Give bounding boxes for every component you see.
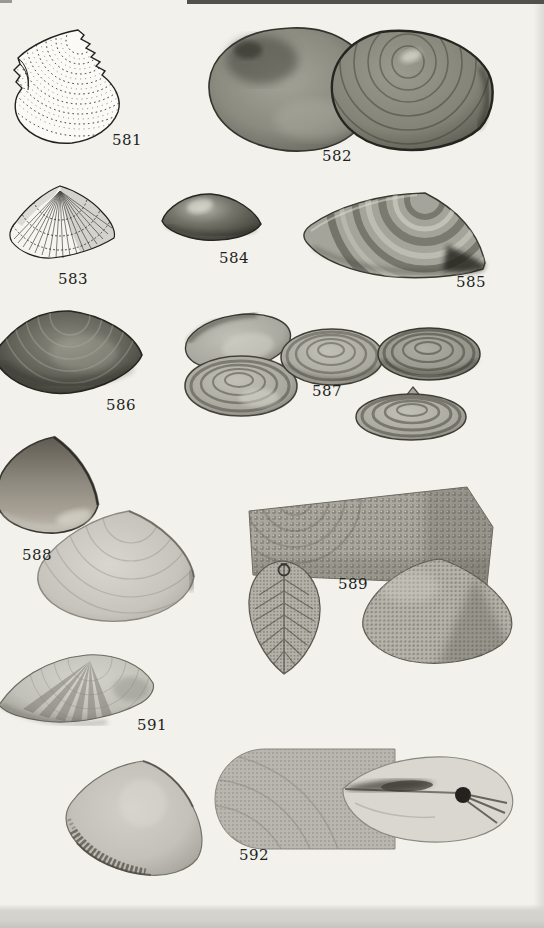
- figure-label-591: 591: [137, 718, 167, 733]
- page-gutter-shade: [534, 0, 544, 928]
- photo-592-group: [55, 743, 519, 897]
- figure-582: [196, 20, 508, 162]
- scan-edge-artifact-top-left: [0, 0, 12, 3]
- figure-584: [156, 189, 270, 247]
- figure-label-584: 584: [219, 251, 249, 266]
- photo-587-shell-group: [181, 310, 483, 444]
- figure-label-583: 583: [58, 272, 88, 287]
- figure-label-585: 585: [456, 275, 486, 290]
- figure-label-587: 587: [312, 384, 342, 399]
- figure-588: [0, 427, 218, 637]
- scan-edge-artifact-top: [187, 0, 544, 4]
- photo-588-shells: [0, 427, 218, 637]
- figure-586: [0, 307, 146, 401]
- photo-582-shells: [196, 20, 508, 162]
- photo-584-shell: [156, 189, 270, 247]
- figure-587: [181, 310, 483, 444]
- figure-583: [4, 182, 124, 274]
- figure-592: [55, 743, 519, 897]
- scan-edge-artifact-bottom: [0, 904, 544, 928]
- photo-586-shell: [0, 307, 146, 401]
- figure-589: [235, 467, 537, 677]
- figure-label-589: 589: [338, 577, 368, 592]
- figure-label-582: 582: [322, 149, 352, 164]
- figure-label-586: 586: [106, 398, 136, 413]
- figure-label-592: 592: [239, 848, 269, 863]
- photo-585-shell: [297, 187, 491, 283]
- figure-585: [297, 187, 491, 283]
- specimen-plate: 581: [0, 0, 544, 928]
- photo-589-group: [235, 467, 537, 677]
- engraving-583-shell: [4, 182, 124, 274]
- figure-label-588: 588: [22, 548, 52, 563]
- figure-label-581: 581: [112, 133, 142, 148]
